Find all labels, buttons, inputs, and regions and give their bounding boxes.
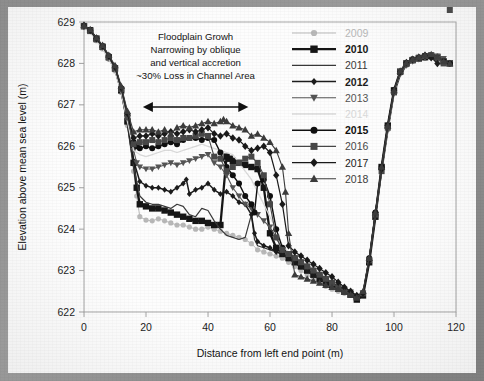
cross-section-chart: 622623624625626627628629020406080100120D… [8,7,476,373]
legend-item-2016[interactable]: 2016 [292,140,369,152]
x-tick-label: 100 [385,321,403,333]
legend-item-2018[interactable]: 2018 [292,173,369,185]
data-point-marker [224,189,229,195]
data-point-marker [162,187,167,193]
data-point-marker [267,201,273,207]
data-point-marker [286,251,292,257]
data-point-marker [174,185,179,191]
data-point-marker [150,218,155,223]
data-point-marker [137,179,142,185]
data-point-marker [143,132,149,140]
series-group [80,7,453,303]
data-point-marker [180,214,186,220]
x-tick-label: 20 [140,321,152,333]
data-point-marker [168,220,173,225]
data-point-marker [199,185,204,191]
data-point-marker [193,227,198,232]
legend-item-2012[interactable]: 2012 [292,76,369,88]
y-axis: 622623624625626627628629 [57,16,84,318]
data-point-marker [255,160,261,166]
data-point-marker [181,222,186,227]
data-point-marker [310,268,316,274]
data-point-marker [155,205,161,211]
legend-label: 2015 [345,124,369,136]
legend-item-2010[interactable]: 2010 [292,43,369,55]
data-point-marker [211,222,217,228]
legend-label: 2014 [345,108,369,120]
data-point-marker [211,160,218,166]
data-point-marker [137,201,143,207]
data-point-marker [273,172,279,180]
data-point-marker [205,133,211,139]
data-point-marker [174,137,180,143]
data-point-marker [254,145,260,153]
data-point-marker [261,249,266,254]
data-point-marker [162,137,168,143]
data-point-marker [273,234,279,240]
legend-item-2017[interactable]: 2017 [292,157,369,169]
data-point-marker [279,163,286,169]
data-point-marker [311,127,318,134]
data-point-marker [224,168,230,174]
data-point-marker [229,122,236,128]
data-point-marker [186,216,192,222]
data-point-marker [217,156,223,162]
data-point-marker [211,137,217,143]
data-point-marker [291,271,298,277]
y-tick-label: 624 [57,223,75,235]
data-point-marker [317,272,323,278]
data-point-marker [254,130,261,136]
legend-label: 2018 [345,173,369,185]
data-point-marker [261,172,267,178]
legend-label: 2010 [345,43,369,55]
annotation-line: Narrowing by oblique [151,44,241,55]
data-point-marker [168,209,174,215]
data-point-marker [311,78,317,85]
data-point-marker [149,137,155,143]
data-point-marker [310,158,317,167]
y-tick-label: 622 [57,306,75,318]
data-point-marker [149,145,155,151]
series-line [84,26,450,299]
data-point-marker [174,162,181,168]
data-point-marker [199,227,204,232]
data-point-marker [252,210,258,216]
data-point-marker [217,150,223,156]
data-point-marker [230,164,236,170]
series-line [84,26,450,299]
data-point-marker [131,141,137,147]
data-point-marker [223,130,229,138]
data-point-marker [143,183,148,189]
annotation-block: Floodplain GrowhNarrowing by obliqueand … [136,31,255,112]
data-point-marker [310,46,317,53]
legend-item-2013[interactable]: 2013 [292,92,369,104]
legend-item-2014[interactable]: 2014 [292,108,369,120]
data-point-marker [204,118,211,124]
data-point-marker [187,224,192,229]
legend-item-2015[interactable]: 2015 [292,124,369,136]
screenshot-root: 622623624625626627628629020406080100120D… [0,0,484,381]
data-point-marker [248,154,254,160]
data-point-marker [248,164,254,170]
data-point-marker [236,160,242,166]
data-point-marker [282,188,289,194]
data-point-marker [143,203,149,209]
data-point-marker [192,218,198,224]
data-point-marker [180,128,186,136]
data-point-marker [161,126,168,132]
x-axis: 020406080100120 [81,312,465,333]
legend-label: 2012 [345,76,369,88]
x-axis-title: Distance from left end point (m) [197,347,343,359]
chart-figure: 622623624625626627628629020406080100120D… [8,7,476,373]
series-line [84,26,450,299]
legend-item-2009[interactable]: 2009 [292,27,369,39]
legend-item-2011[interactable]: 2011 [292,59,368,71]
data-point-marker [323,276,329,282]
data-point-marker [267,225,274,231]
x-tick-label: 80 [326,321,338,333]
legend: 2009201020112012201320142015201620172018 [292,27,369,185]
y-tick-label: 625 [57,181,75,193]
data-point-marker [249,241,254,246]
data-point-marker [255,181,261,187]
x-tick-label: 60 [264,321,276,333]
